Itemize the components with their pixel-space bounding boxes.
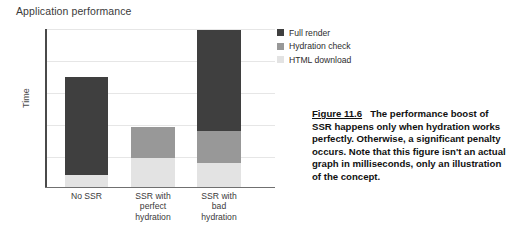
figure-caption-text: The performance boost of SSR happens onl… xyxy=(312,108,506,182)
legend-item-hydration-check: Hydration check xyxy=(277,40,351,54)
legend-swatch-hydration-check xyxy=(277,43,284,50)
bar-segment-hydration-check xyxy=(131,127,175,158)
legend-swatch-full-render xyxy=(277,29,284,36)
legend-item-html-download: HTML download xyxy=(277,53,351,67)
chart-plot-area: Time No SSR SSR with perfect hydration S… xyxy=(0,0,300,231)
bar-segment-full-render xyxy=(197,30,241,131)
y-axis-line xyxy=(45,29,47,188)
legend-label-hydration-check: Hydration check xyxy=(289,41,351,51)
bar-segment-html-download xyxy=(197,163,241,187)
bar-ssr-perfect-hydration xyxy=(131,127,175,187)
legend-label-html-download: HTML download xyxy=(289,55,351,65)
legend-item-full-render: Full render xyxy=(277,26,351,40)
legend-label-full-render: Full render xyxy=(289,28,330,38)
figure-caption-label: Figure 11.6 xyxy=(312,108,362,119)
bar-no-ssr xyxy=(65,77,108,187)
figure-caption: Figure 11.6 The performance boost of SSR… xyxy=(312,108,510,184)
x-tick-label-ssr-bad-hydration: SSR with bad hydration xyxy=(188,191,250,222)
bar-ssr-bad-hydration xyxy=(197,30,241,187)
bar-segment-full-render xyxy=(65,77,108,175)
y-axis-label: Time xyxy=(21,88,31,108)
figure-11-6: Application performance Time No SSR SS xyxy=(0,0,528,231)
chart-legend: Full render Hydration check HTML downloa… xyxy=(277,26,351,67)
legend-swatch-html-download xyxy=(277,56,284,63)
x-tick-label-no-ssr: No SSR xyxy=(56,191,117,201)
x-axis-line xyxy=(45,187,275,188)
bar-segment-html-download xyxy=(131,158,175,187)
x-tick-label-ssr-perfect-hydration: SSR with perfect hydration xyxy=(122,191,184,222)
figure-caption-gap xyxy=(362,108,370,119)
bar-segment-html-download xyxy=(65,175,108,187)
bar-segment-hydration-check xyxy=(197,131,241,163)
